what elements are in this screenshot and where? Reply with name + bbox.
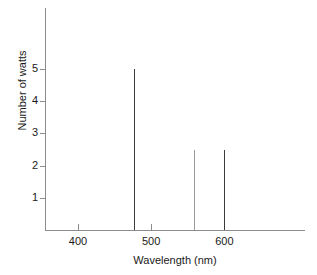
spectral-line — [224, 150, 225, 230]
y-axis-title: Number of watts — [16, 21, 29, 161]
y-axis-tick — [40, 133, 45, 134]
line-spectrum-chart: 12345 400500600 Wavelength (nm) Number o… — [0, 0, 317, 275]
y-axis-tick — [40, 101, 45, 102]
spectral-line — [134, 69, 135, 230]
x-axis-line — [45, 230, 305, 231]
x-axis-title: Wavelength (nm) — [45, 254, 305, 267]
x-axis-tick-label: 400 — [48, 235, 108, 247]
x-axis-tick — [78, 224, 79, 230]
y-axis-tick — [40, 166, 45, 167]
y-axis-tick-label: 1 — [2, 192, 38, 203]
y-axis-tick — [40, 69, 45, 70]
x-axis-tick — [151, 224, 152, 230]
spectral-line — [194, 150, 195, 230]
x-axis-tick-label: 500 — [121, 235, 181, 247]
y-axis-line — [45, 8, 46, 231]
y-axis-tick-label: 2 — [2, 160, 38, 171]
x-axis-tick-label: 600 — [194, 235, 254, 247]
y-axis-tick — [40, 198, 45, 199]
